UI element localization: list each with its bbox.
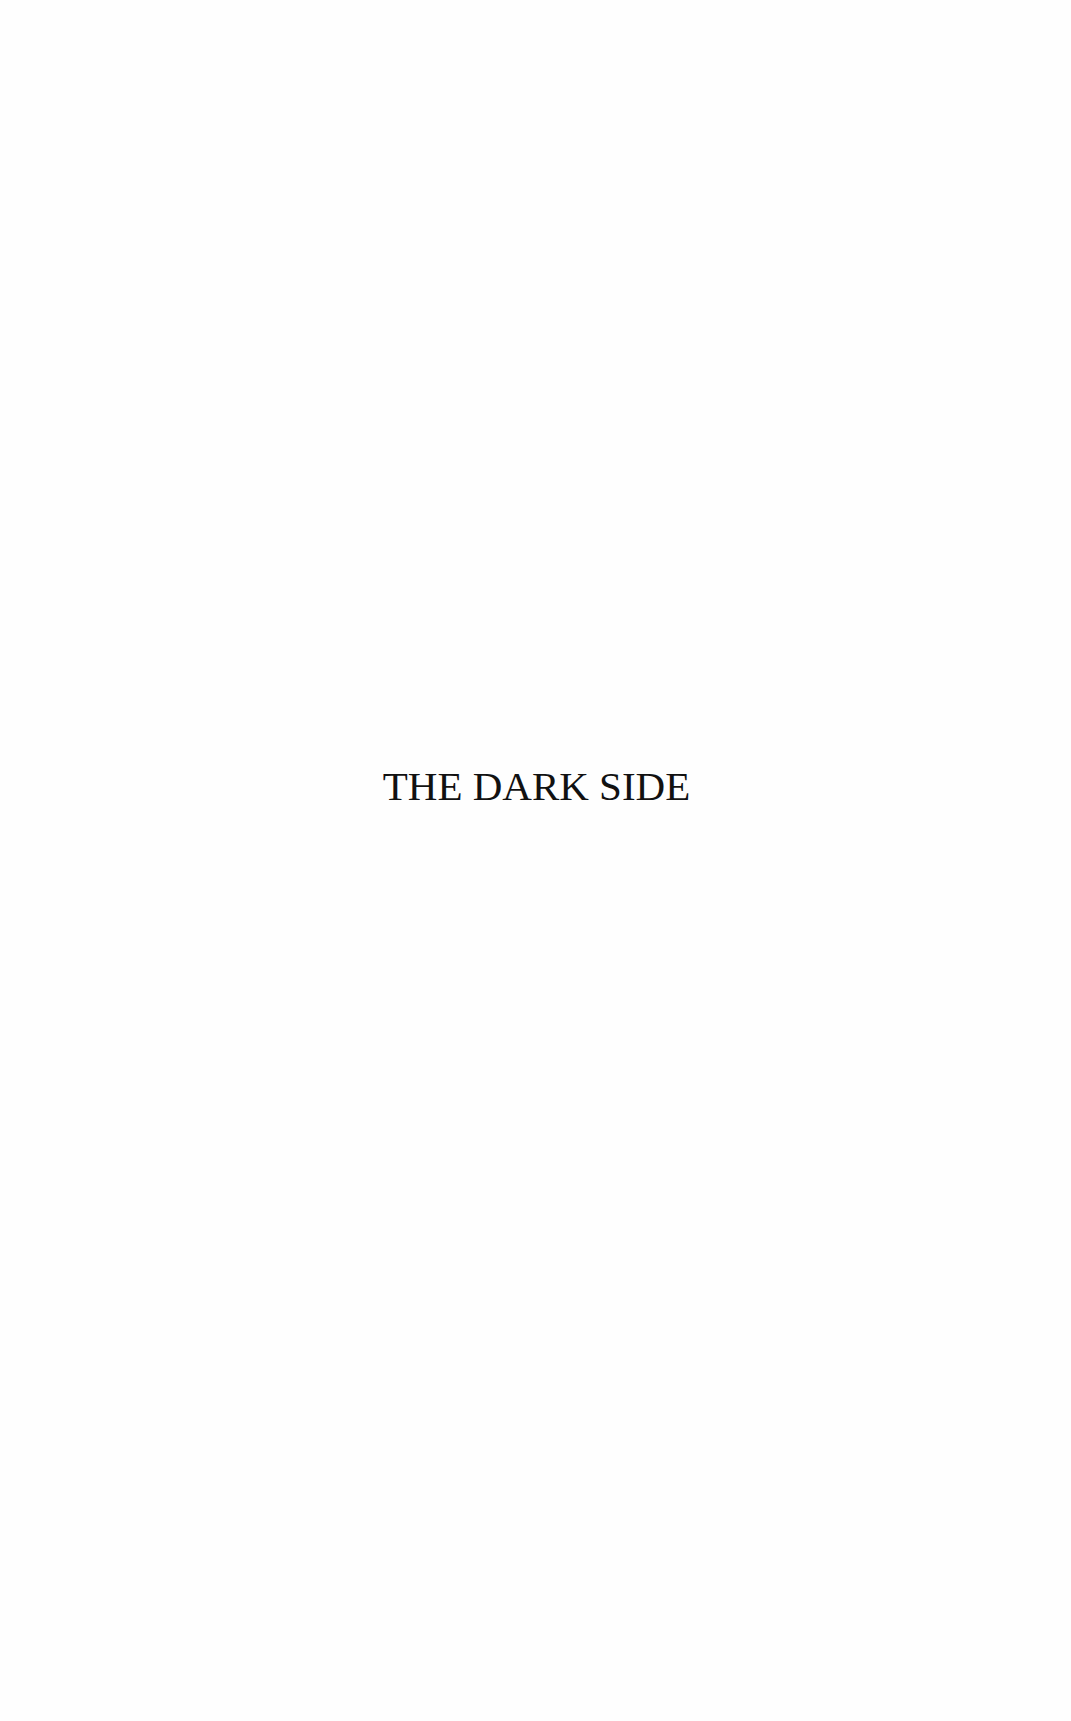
book-page: THE DARK SIDE bbox=[0, 0, 1071, 1721]
half-title: THE DARK SIDE bbox=[0, 758, 1071, 814]
